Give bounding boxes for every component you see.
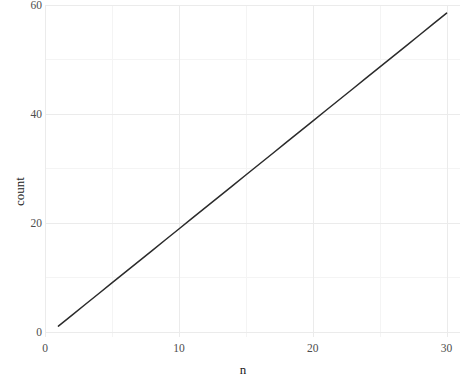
y-axis-tick-label: 0 [8,325,42,339]
x-axis-tick-label: 0 [25,341,65,355]
x-axis-title: n [0,362,460,378]
y-axis-tick-label: 60 [8,0,42,12]
x-axis-tick-label: 30 [427,341,460,355]
data-series-count [45,5,460,337]
data-line-path [58,13,446,326]
y-axis-tick-label: 20 [8,216,42,230]
x-axis-tick-label: 20 [293,341,333,355]
x-axis-tick-label: 10 [159,341,199,355]
y-axis-tick-label: 40 [8,107,42,121]
plot-panel [45,5,460,337]
line-chart: count 0204060 n 0102030 [0,0,460,383]
y-axis-tick-labels: 0204060 [0,0,42,383]
